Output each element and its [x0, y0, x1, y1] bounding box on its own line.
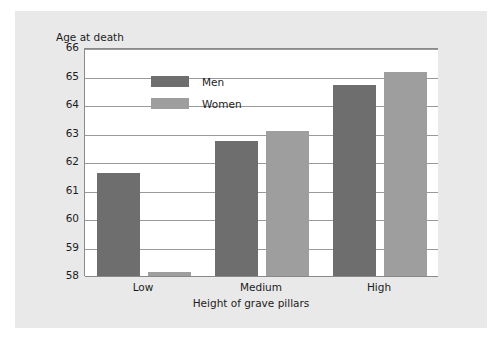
legend-label-women: Women — [202, 98, 242, 110]
bar-women-medium — [266, 131, 309, 276]
x-axis-label-low: Low — [84, 281, 202, 293]
y-axis-tick-label: 60 — [66, 212, 79, 224]
y-axis-tick-label: 62 — [66, 155, 79, 167]
plot-area — [84, 48, 438, 276]
y-axis-tick-label: 59 — [66, 241, 79, 253]
x-axis-label-high: High — [320, 281, 438, 293]
chart-figure: Age at death 585960616263646566 MenWomen… — [15, 11, 487, 328]
y-axis-tick-label: 64 — [66, 98, 79, 110]
legend-item-men: Men — [151, 73, 242, 90]
bar-men-high — [333, 85, 376, 276]
y-axis-tick-label: 63 — [66, 127, 79, 139]
bar-women-low — [148, 272, 191, 276]
bar-men-medium — [215, 141, 258, 276]
x-axis-label-medium: Medium — [202, 281, 320, 293]
legend-item-women: Women — [151, 95, 242, 112]
gridline — [85, 49, 438, 50]
legend-label-men: Men — [202, 76, 224, 88]
y-axis-tick-label: 65 — [66, 70, 79, 82]
bar-women-high — [384, 72, 427, 276]
chart-legend: MenWomen — [151, 73, 242, 117]
x-axis-title: Height of grave pillars — [15, 297, 487, 309]
plot-inner — [85, 49, 438, 276]
legend-swatch-women — [151, 98, 189, 109]
y-axis-tick-label: 61 — [66, 184, 79, 196]
y-axis-tick-labels: 585960616263646566 — [53, 48, 79, 276]
y-axis-tick-label: 66 — [66, 41, 79, 53]
bar-men-low — [97, 173, 140, 276]
legend-swatch-men — [151, 76, 189, 87]
y-axis-tick-label: 58 — [66, 269, 79, 281]
